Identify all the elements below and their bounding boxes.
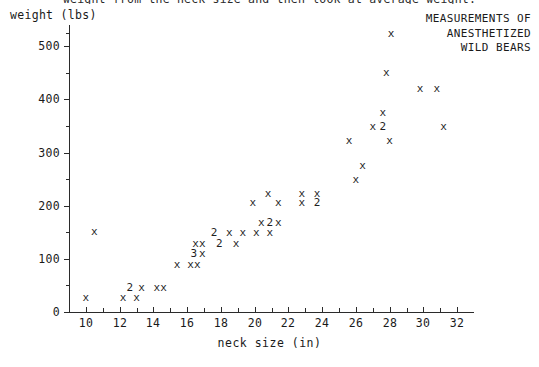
y-tick-major <box>64 46 70 47</box>
data-point: x <box>135 282 149 293</box>
x-tick-minor <box>170 308 171 312</box>
y-tick-label: 100 <box>0 252 60 266</box>
y-axis-line <box>69 25 70 313</box>
data-point: x <box>87 226 101 237</box>
y-tick-label: 300 <box>0 146 60 160</box>
x-axis-title: neck size (in) <box>0 336 539 350</box>
x-tick-minor <box>373 308 374 312</box>
y-tick-major <box>64 259 70 260</box>
x-tick-minor <box>272 308 273 312</box>
x-tick-minor <box>339 308 340 312</box>
x-tick-label: 32 <box>437 316 477 330</box>
y-tick-label: 0 <box>0 305 60 319</box>
data-point: x <box>170 259 184 270</box>
y-tick-major <box>64 153 70 154</box>
y-tick-label: 500 <box>0 39 60 53</box>
data-point: x <box>413 83 427 94</box>
data-point: x <box>342 135 356 146</box>
y-tick-minor <box>66 73 70 74</box>
x-tick-minor <box>440 308 441 312</box>
x-tick-major <box>221 307 222 313</box>
y-tick-minor <box>66 285 70 286</box>
scatter-chart: weight from the neck size and then look … <box>0 0 539 367</box>
data-point-cluster: 2 <box>376 121 390 132</box>
data-point: x <box>261 188 275 199</box>
x-tick-minor <box>204 308 205 312</box>
chart-title-line-1: MEASUREMENTS OF <box>426 12 531 27</box>
data-point: x <box>190 259 204 270</box>
y-tick-minor <box>66 33 70 34</box>
data-point: x <box>157 282 171 293</box>
data-point: x <box>295 188 309 199</box>
data-point: x <box>349 174 363 185</box>
data-point-cluster: 2 <box>212 238 226 249</box>
x-tick-major <box>86 307 87 313</box>
chart-title-line-2: xANESTHETIZED <box>426 27 531 42</box>
y-tick-label: 200 <box>0 199 60 213</box>
x-tick-major <box>322 307 323 313</box>
data-point: x <box>195 238 209 249</box>
x-tick-major <box>390 307 391 313</box>
x-tick-major <box>288 307 289 313</box>
y-tick-minor <box>66 126 70 127</box>
y-tick-minor <box>66 179 70 180</box>
x-tick-major <box>356 307 357 313</box>
y-tick-minor <box>66 232 70 233</box>
data-point: x <box>356 160 370 171</box>
data-point: x <box>383 135 397 146</box>
x-tick-major <box>255 307 256 313</box>
data-point: x <box>116 292 130 303</box>
x-tick-major <box>423 307 424 313</box>
x-axis-line <box>69 312 474 313</box>
data-point: x <box>222 227 236 238</box>
data-point: x <box>79 292 93 303</box>
x-tick-minor <box>305 308 306 312</box>
legend-marker-icon: x <box>388 27 395 42</box>
x-tick-major <box>187 307 188 313</box>
x-tick-minor <box>238 308 239 312</box>
chart-title: MEASUREMENTS OF xANESTHETIZED WILD BEARS <box>426 12 531 56</box>
x-tick-minor <box>103 308 104 312</box>
y-tick-major <box>64 312 70 313</box>
data-point: x <box>130 292 144 303</box>
y-tick-major <box>64 206 70 207</box>
data-point: x <box>310 188 324 199</box>
x-tick-minor <box>137 308 138 312</box>
data-point: x <box>263 227 277 238</box>
y-tick-label: 400 <box>0 92 60 106</box>
data-point: x <box>236 227 250 238</box>
data-point: x <box>379 67 393 78</box>
y-axis-title: weight (lbs) <box>10 8 97 22</box>
data-point: x <box>246 197 260 208</box>
x-tick-major <box>120 307 121 313</box>
x-tick-major <box>457 307 458 313</box>
data-point: x <box>229 238 243 249</box>
chart-title-line-3: WILD BEARS <box>426 41 531 56</box>
data-point: x <box>376 107 390 118</box>
y-tick-major <box>64 99 70 100</box>
data-point: x <box>437 121 451 132</box>
x-tick-major <box>153 307 154 313</box>
data-point: x <box>271 217 285 228</box>
data-point: x <box>249 227 263 238</box>
data-point: x <box>430 83 444 94</box>
data-point-cluster: 2 <box>207 227 221 238</box>
clipped-caption-text: weight from the neck size and then look … <box>0 0 539 4</box>
x-tick-minor <box>407 308 408 312</box>
